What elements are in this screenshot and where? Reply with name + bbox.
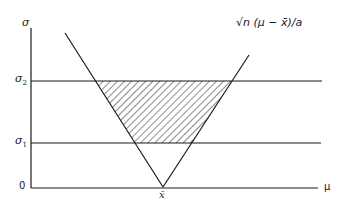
origin-label: 0 [19,181,25,191]
diagram-canvas [0,0,342,204]
x-axis-label: μ [324,182,330,192]
sigma2-subscript: 2 [23,79,27,87]
y-axis-label: σ [22,17,30,28]
sigma1-label: σ1 [15,135,27,146]
sigma1-symbol: σ [15,134,23,147]
sigma1-subscript: 1 [23,141,27,149]
sigma2-label: σ2 [15,73,27,84]
sigma2-symbol: σ [15,72,23,85]
hatched-region [90,81,240,143]
curve-label: √n (μ − x̄)/a [236,17,302,28]
xbar-label: x̄ [159,190,165,200]
